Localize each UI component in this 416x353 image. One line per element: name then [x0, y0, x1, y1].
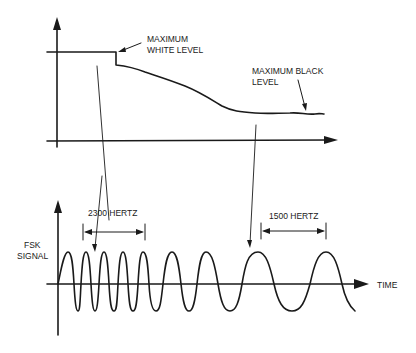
top-plot — [47, 17, 338, 147]
dim-arrow-icon — [84, 229, 92, 235]
label-signal: SIGNAL — [17, 251, 48, 261]
black-level-arrow-icon — [302, 103, 307, 111]
label-max-black-1: MAXIMUM BLACK — [252, 66, 324, 76]
label-2300-hertz: 2300 HERTZ — [88, 208, 137, 218]
fsk-diagram: MAXIMUM WHITE LEVEL MAXIMUM BLACK LEVEL … — [0, 0, 416, 353]
top-x-arrow-icon — [324, 136, 338, 144]
bottom-plot — [47, 200, 369, 335]
connector-arrow-icon — [247, 240, 252, 248]
label-max-black-2: LEVEL — [252, 77, 279, 87]
label-1500-hertz: 1500 HERTZ — [269, 211, 318, 221]
white-level-arrow-icon — [118, 47, 126, 52]
connector-black-to-1500 — [250, 125, 256, 244]
bottom-x-arrow-icon — [354, 279, 369, 289]
fsk-waveform — [58, 252, 355, 311]
label-max-white-1: MAXIMUM — [147, 34, 188, 44]
bottom-y-arrow-icon — [54, 200, 62, 213]
dim-arrow-icon — [262, 228, 270, 234]
label-max-white-2: WHITE LEVEL — [147, 45, 203, 55]
dim-arrow-icon — [317, 228, 325, 234]
top-x-axis — [47, 140, 330, 141]
black-level-pointer — [298, 80, 305, 107]
connector-arrow-icon — [92, 244, 97, 252]
dim-arrow-icon — [136, 229, 144, 235]
connector-white-to-2300 — [97, 66, 109, 220]
brightness-curve — [47, 52, 324, 114]
label-fsk: FSK — [24, 240, 41, 250]
top-y-arrow-icon — [53, 17, 61, 30]
label-time: TIME — [377, 280, 398, 290]
